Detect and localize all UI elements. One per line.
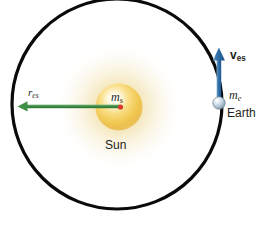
velocity-label: ves xyxy=(230,49,246,61)
radius-arrow-head xyxy=(18,101,28,111)
earth-label: Earth xyxy=(227,107,256,119)
radius-subscript: es xyxy=(32,91,38,100)
sun-center-dot xyxy=(118,104,123,109)
sun-label: Sun xyxy=(105,139,126,151)
radius-label: res xyxy=(28,87,39,98)
sun-mass-label: ms xyxy=(111,91,123,103)
sun-mass-symbol: m xyxy=(111,90,120,104)
earth-body xyxy=(213,97,225,109)
velocity-symbol: v xyxy=(230,48,237,62)
velocity-arrow-shaft xyxy=(217,58,222,102)
earth-mass-subscript: e xyxy=(238,94,242,103)
earth-mass-label: me xyxy=(229,89,241,101)
sun-mass-subscript: s xyxy=(120,96,123,105)
velocity-arrow-head xyxy=(213,48,225,61)
earth-mass-symbol: m xyxy=(229,88,238,102)
velocity-subscript: es xyxy=(237,54,246,63)
radius-arrow-shaft xyxy=(24,105,120,109)
diagram-canvas: res ms Sun ves me Earth xyxy=(0,0,273,225)
